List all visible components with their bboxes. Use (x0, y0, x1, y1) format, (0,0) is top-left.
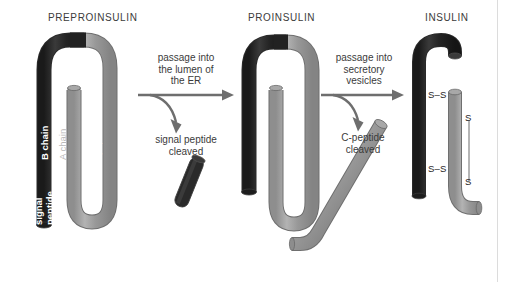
bond-label-interchain-top: S–S (428, 89, 447, 100)
signal-peptide-fragment (173, 154, 206, 209)
label-c-peptide: C-peptide (92, 124, 103, 165)
insulin-processing-diagram: PREPROINSULIN PROINSULIN INSULIN signal … (0, 0, 507, 282)
transition-c-peptide-cleaved-text: C-peptide cleaved (320, 132, 406, 155)
panel-title-preproinsulin: PREPROINSULIN (48, 12, 138, 23)
transition-signal-peptide-cleaved-text: signal peptide cleaved (134, 134, 238, 157)
bond-label-intrachain-bottom: S (465, 176, 471, 187)
label-b-chain: B chain (40, 126, 51, 160)
label-signal-peptide: signal peptide (34, 191, 55, 225)
panel-title-proinsulin: PROINSULIN (248, 12, 315, 23)
transition-lumen-er-text: passage into the lumen of the ER (138, 52, 234, 87)
bond-label-intrachain-top: S (465, 112, 471, 123)
diagram-graphics (0, 0, 507, 282)
proinsulin-structure (242, 42, 313, 224)
insulin-structure (412, 40, 482, 215)
transition-1-arrows (138, 90, 234, 134)
panel-title-insulin: INSULIN (425, 12, 469, 23)
label-a-chain: A chain (58, 129, 69, 160)
transition-secretory-vesicles-text: passage into secretory vesicles (321, 52, 407, 87)
transition-2-arrows (321, 90, 404, 132)
bond-label-interchain-bottom: S–S (428, 163, 447, 174)
